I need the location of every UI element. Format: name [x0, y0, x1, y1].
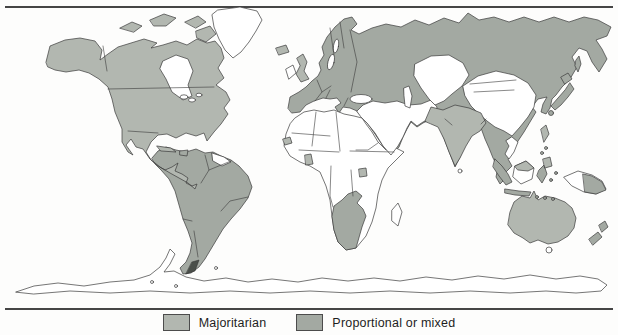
- malaysian-borneo: [515, 161, 534, 171]
- japan-kyushu: [549, 111, 554, 116]
- great-lake: [180, 95, 188, 99]
- antarctic-island: [151, 281, 154, 284]
- philippines-visayas: [545, 147, 548, 150]
- great-lake: [189, 98, 196, 102]
- philippines-luzon: [541, 125, 549, 142]
- sri-lanka: [458, 169, 462, 173]
- great-lake: [196, 93, 202, 97]
- legend-swatch-majoritarian: [163, 314, 190, 331]
- iceland: [276, 45, 289, 55]
- philippines-visayas: [541, 152, 544, 155]
- moluccas: [555, 172, 558, 175]
- sakhalin: [575, 56, 581, 72]
- australia: [508, 191, 576, 244]
- antarctic-island: [175, 285, 178, 288]
- legend-item-majoritarian: Majoritarian: [163, 314, 267, 331]
- hispaniola: [180, 150, 188, 156]
- legend-item-proportional: Proportional or mixed: [296, 314, 455, 331]
- new-zealand: [589, 221, 608, 245]
- map-legend: Majoritarian Proportional or mixed: [0, 314, 618, 335]
- ireland: [286, 65, 296, 79]
- lesser-sunda: [552, 198, 555, 201]
- lesser-sunda: [536, 196, 539, 199]
- moluccas: [550, 179, 553, 182]
- united-kingdom: [296, 54, 309, 82]
- java: [505, 189, 531, 196]
- falkland-islands: [215, 267, 218, 270]
- world-map: [0, 0, 618, 335]
- legend-label-majoritarian: Majoritarian: [199, 314, 267, 331]
- madagascar: [392, 203, 402, 226]
- figure-bottom-rule: [5, 308, 613, 310]
- philippines-mindanao: [543, 157, 552, 168]
- lesser-sunda: [544, 197, 547, 200]
- legend-label-proportional: Proportional or mixed: [332, 314, 455, 331]
- arctic-islands: [120, 14, 216, 42]
- uganda: [359, 168, 367, 177]
- tasmania: [546, 247, 552, 253]
- black-sea: [350, 95, 372, 104]
- antarctica: [16, 249, 607, 294]
- india-south-asia: [425, 105, 486, 166]
- scanned-map-figure: Majoritarian Proportional or mixed: [0, 0, 618, 335]
- legend-swatch-proportional: [296, 314, 323, 331]
